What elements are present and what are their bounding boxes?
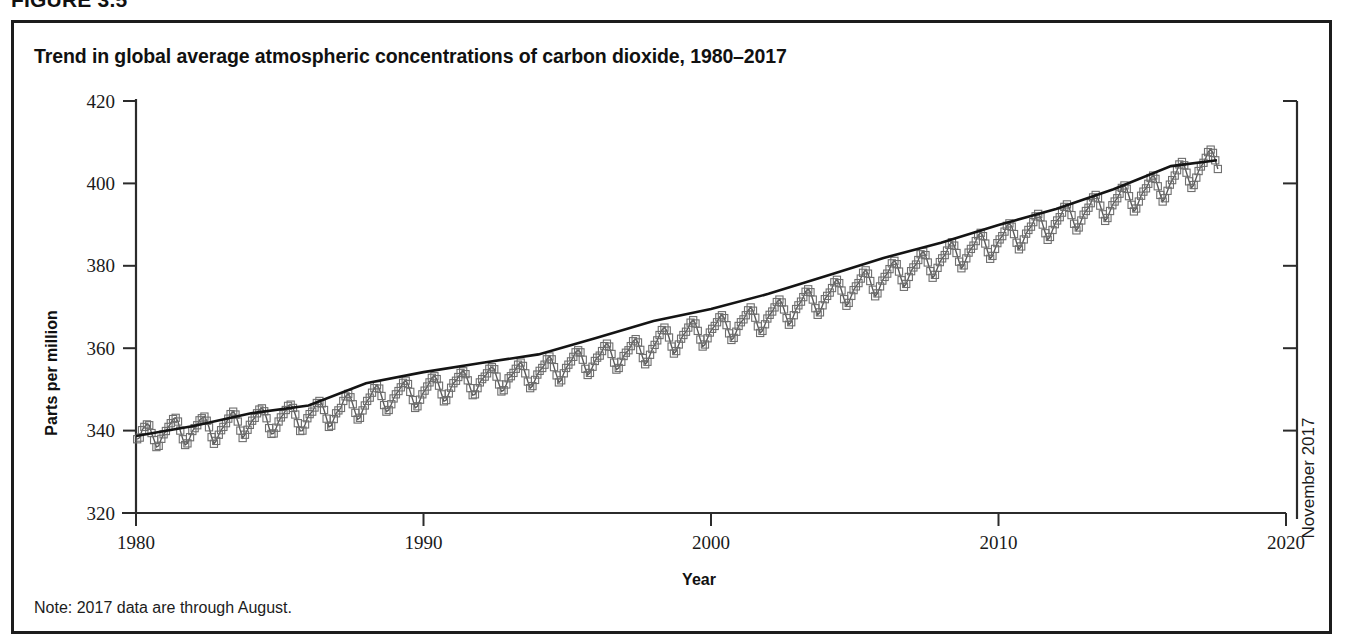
data-series-group (134, 146, 1222, 451)
figure-title: Trend in global average atmospheric conc… (34, 45, 787, 68)
figure-note: Note: 2017 data are through August. (34, 599, 292, 617)
y-tick-label: 380 (87, 255, 116, 276)
trend-line (136, 160, 1217, 436)
axis-spines (122, 99, 1286, 513)
y-tick-label: 340 (87, 420, 116, 441)
x-axis-ticks: 19801990200020102020 (117, 513, 1305, 553)
x-tick-label: 2000 (692, 532, 730, 553)
right-axis-annotation: November 2017 (1299, 418, 1318, 539)
y-tick-label: 420 (87, 91, 116, 112)
y-tick-label: 400 (87, 173, 116, 194)
y-tick-label: 320 (87, 503, 116, 524)
y-tick-label: 360 (87, 338, 116, 359)
figure-number-label: FIGURE 3.5 (11, 0, 127, 12)
y-axis-title: Parts per million (43, 310, 60, 435)
co2-trend-chart: Parts per million Year November 2017 320… (14, 83, 1329, 593)
data-point-markers (134, 146, 1222, 451)
x-tick-label: 2020 (1267, 532, 1305, 553)
x-tick-label: 2010 (980, 532, 1018, 553)
y-axis-ticks: 320340360380400420 (87, 91, 137, 524)
chart-plot-area: Parts per million Year November 2017 320… (14, 83, 1329, 593)
x-tick-label: 1980 (117, 532, 155, 553)
figure-container: Trend in global average atmospheric conc… (11, 20, 1332, 634)
right-axis-ticks (1283, 101, 1297, 519)
x-tick-label: 1990 (405, 532, 443, 553)
x-axis-title: Year (682, 571, 716, 588)
